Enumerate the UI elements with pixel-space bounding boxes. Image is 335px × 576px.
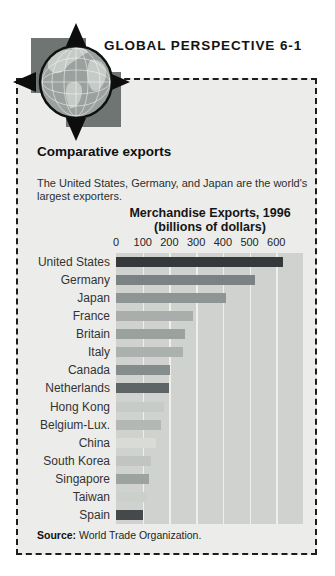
tick-0: 0 <box>113 236 119 248</box>
bar-china <box>116 438 156 448</box>
label-france: France <box>18 307 113 325</box>
tick-600: 600 <box>267 236 285 248</box>
bar-row-germany <box>116 271 303 289</box>
arrow-down-icon <box>66 118 86 141</box>
bars-layer <box>116 253 303 524</box>
bar-row-netherlands <box>116 379 303 397</box>
bar-south-korea <box>116 456 151 466</box>
bar-canada <box>116 365 170 375</box>
bar-france <box>116 311 193 321</box>
label-japan: Japan <box>18 289 113 307</box>
label-belgium-lux: Belgium-Lux. <box>18 416 113 434</box>
bar-united-states <box>116 257 283 267</box>
tick-200: 200 <box>160 236 178 248</box>
source-text: World Trade Organization. <box>76 529 201 541</box>
bar-netherlands <box>116 383 169 393</box>
source-line: Source: World Trade Organization. <box>37 529 201 541</box>
label-south-korea: South Korea <box>18 452 113 470</box>
bar-row-china <box>116 434 303 452</box>
globe-compass-logo <box>12 20 134 146</box>
x-axis-ticks: 0100200300400500600 <box>116 236 303 249</box>
bar-row-france <box>116 307 303 325</box>
bar-singapore <box>116 474 149 484</box>
tick-100: 100 <box>134 236 152 248</box>
tick-300: 300 <box>187 236 205 248</box>
category-labels: United StatesGermanyJapanFranceBritainIt… <box>18 253 113 524</box>
bar-row-south-korea <box>116 452 303 470</box>
label-singapore: Singapore <box>18 470 113 488</box>
label-china: China <box>18 434 113 452</box>
label-italy: Italy <box>18 343 113 361</box>
label-taiwan: Taiwan <box>18 488 113 506</box>
bar-row-hong-kong <box>116 398 303 416</box>
bar-row-belgium-lux <box>116 416 303 434</box>
bar-spain <box>116 510 143 520</box>
tick-400: 400 <box>214 236 232 248</box>
bar-row-canada <box>116 361 303 379</box>
dashed-panel: Comparative exports The United States, G… <box>16 78 317 555</box>
bar-hong-kong <box>116 402 164 412</box>
bar-row-italy <box>116 343 303 361</box>
source-label: Source: <box>37 529 76 541</box>
bar-row-taiwan <box>116 488 303 506</box>
chart-title: Merchandise Exports, 1996 <box>98 207 322 221</box>
arrow-up-icon <box>66 23 86 46</box>
panel-description: The United States, Germany, and Japan ar… <box>37 177 315 202</box>
label-canada: Canada <box>18 361 113 379</box>
label-united-states: United States <box>18 253 113 271</box>
bar-germany <box>116 275 255 285</box>
bar-row-japan <box>116 289 303 307</box>
panel-heading: Comparative exports <box>37 144 171 159</box>
chart-title-block: Merchandise Exports, 1996 (billions of d… <box>98 207 322 234</box>
bar-row-spain <box>116 506 303 524</box>
plot-area <box>116 253 303 524</box>
figure-global-perspective: GLOBAL PERSPECTIVE 6-1 Comparative expor… <box>0 0 335 576</box>
chart-subtitle: (billions of dollars) <box>98 221 322 235</box>
bar-row-united-states <box>116 253 303 271</box>
label-hong-kong: Hong Kong <box>18 398 113 416</box>
bar-italy <box>116 347 183 357</box>
label-germany: Germany <box>18 271 113 289</box>
label-spain: Spain <box>18 506 113 524</box>
arrow-left-icon <box>13 72 36 92</box>
label-britain: Britain <box>18 325 113 343</box>
bar-row-britain <box>116 325 303 343</box>
bar-belgium-lux <box>116 420 161 430</box>
bar-row-singapore <box>116 470 303 488</box>
bar-japan <box>116 293 226 303</box>
bar-britain <box>116 329 185 339</box>
bar-taiwan <box>116 492 147 502</box>
tick-500: 500 <box>240 236 258 248</box>
label-netherlands: Netherlands <box>18 379 113 397</box>
